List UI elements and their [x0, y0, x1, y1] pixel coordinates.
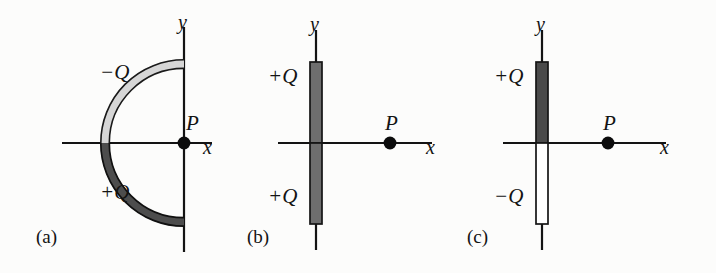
charge-label-lower-c: −Q: [494, 186, 523, 207]
charge-label-lower-a: +Q: [100, 182, 129, 203]
x-axis-label-a: x: [203, 137, 212, 157]
rod-lower-negative-q-c: [536, 143, 548, 224]
y-axis-label-c: y: [536, 14, 545, 34]
rod-lower-positive-q: [310, 143, 322, 224]
y-axis-label-b: y: [310, 14, 319, 34]
rod-upper-positive-q: [310, 62, 322, 143]
rod-upper-positive-q-c: [536, 62, 548, 143]
panel-c: +Q −Q y x P (c): [470, 0, 716, 273]
charge-label-lower-b: +Q: [268, 186, 297, 207]
x-axis-label-c: x: [660, 137, 669, 157]
y-axis-label-a: y: [178, 12, 187, 32]
x-axis-label-b: x: [426, 137, 435, 157]
charge-label-upper-b: +Q: [268, 66, 297, 87]
point-p-marker-c: [602, 137, 615, 150]
charge-label-upper-c: +Q: [494, 66, 523, 87]
panel-b: +Q +Q y x P (b): [240, 0, 470, 273]
point-p-marker-a: [178, 137, 191, 150]
panel-caption-a: (a): [36, 227, 57, 246]
point-p-marker-b: [384, 137, 397, 150]
point-label-b: P: [385, 113, 398, 134]
panel-caption-c: (c): [467, 227, 488, 246]
point-label-a: P: [186, 113, 199, 134]
point-label-c: P: [603, 113, 616, 134]
panel-a: −Q +Q y x P (a): [0, 0, 240, 273]
physics-figure: −Q +Q y x P (a) +Q +Q y x P (b): [0, 0, 716, 273]
charge-label-upper-a: −Q: [100, 62, 129, 83]
panel-caption-b: (b): [247, 227, 269, 246]
